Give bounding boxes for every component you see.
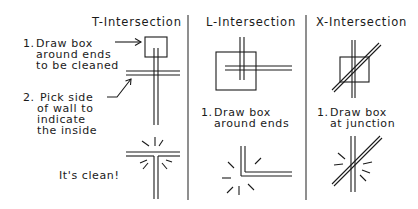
x-intersection-before-drawing xyxy=(332,40,381,98)
step-line: at junction xyxy=(330,118,395,129)
t-intersection-before-drawing xyxy=(126,37,180,125)
sparkle-icon xyxy=(140,137,172,169)
step-number: 1. xyxy=(23,38,35,49)
column-title-x-intersection: X-Intersection xyxy=(316,17,407,28)
step-line: around ends xyxy=(214,118,289,129)
arrow-icon xyxy=(115,39,141,46)
l-intersection-before-drawing xyxy=(216,37,292,90)
column-title-t-intersection: T-Intersection xyxy=(92,17,182,28)
x-intersection-clean-drawing xyxy=(332,136,382,192)
step-line: to be cleaned xyxy=(36,60,119,71)
column-title-l-intersection: L-Intersection xyxy=(206,17,296,28)
step-line: the inside xyxy=(37,125,97,136)
step-number: 2. xyxy=(23,92,35,103)
t-intersection-clean-drawing xyxy=(126,137,180,199)
l-intersection-clean-drawing xyxy=(222,146,292,195)
step-number: 1. xyxy=(317,107,329,118)
step-number: 1. xyxy=(201,107,213,118)
arrow-icon xyxy=(107,79,131,97)
result-caption: It's clean! xyxy=(59,170,119,181)
